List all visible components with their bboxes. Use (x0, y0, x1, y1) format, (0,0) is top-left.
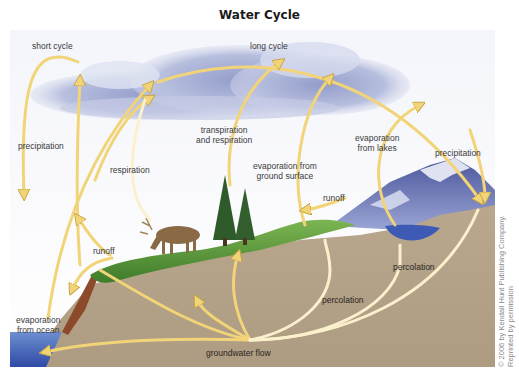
label-percolation-right: percolation (393, 262, 435, 272)
copyright-credit: © 2006 by Kendall Hunt Publishing Compan… (497, 215, 515, 367)
label-transpiration: transpiration and respiration (196, 125, 252, 145)
label-evaporation-ground: evaporation from ground surface (253, 161, 317, 181)
label-respiration: respiration (110, 165, 150, 175)
label-long-cycle: long cycle (250, 41, 288, 51)
label-groundwater-flow: groundwater flow (206, 348, 271, 358)
label-percolation-left: percolation (322, 295, 364, 305)
label-precipitation-left: precipitation (18, 141, 64, 151)
label-precipitation-right: precipitation (435, 148, 481, 158)
label-short-cycle: short cycle (32, 41, 73, 51)
water-cycle-illustration (0, 0, 519, 381)
label-evaporation-lakes: evaporation from lakes (355, 133, 399, 153)
label-evaporation-ocean: evaporation from ocean (16, 315, 60, 335)
label-runoff-left: runoff (93, 246, 115, 256)
label-runoff-right: runoff (323, 193, 345, 203)
